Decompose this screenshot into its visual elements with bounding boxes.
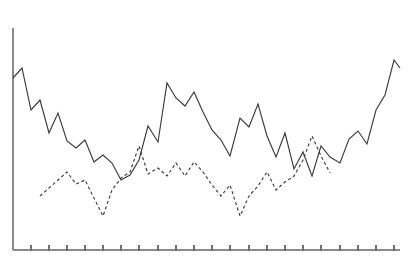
data-line-dashed xyxy=(40,136,330,216)
plot-series-group xyxy=(13,60,400,216)
chart-canvas xyxy=(0,0,409,272)
axes-group xyxy=(13,28,400,250)
line-chart-figure xyxy=(0,0,409,272)
data-line-solid xyxy=(13,60,400,180)
x-axis-tick-group xyxy=(31,245,394,251)
